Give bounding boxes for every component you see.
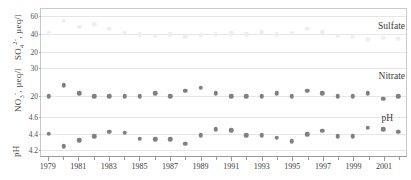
- data-point: [138, 94, 143, 99]
- data-point: [259, 94, 264, 99]
- data-point: [153, 34, 158, 39]
- x-tick-major: [262, 157, 263, 161]
- data-point: [274, 135, 279, 140]
- data-point: [153, 91, 158, 96]
- panel-sulfate: 604020: [40, 8, 407, 60]
- series-label-nitrate: Nitrate: [379, 71, 405, 81]
- data-point: [214, 127, 219, 132]
- data-point: [305, 132, 310, 137]
- x-tick-major: [323, 157, 324, 161]
- x-tick-minor: [338, 157, 339, 160]
- data-point: [229, 128, 234, 133]
- y-axis-title-nitrate: NO3-, µeq/l: [11, 68, 25, 112]
- y-tick-mark: [39, 134, 42, 135]
- data-point: [229, 94, 234, 99]
- data-point: [214, 91, 219, 96]
- x-tick-major: [109, 157, 110, 161]
- data-point: [381, 35, 386, 40]
- y-tick-label: 60: [31, 12, 39, 21]
- data-point: [168, 137, 173, 142]
- data-point: [320, 91, 325, 96]
- x-tick-minor: [399, 157, 400, 160]
- data-point: [335, 94, 340, 99]
- x-tick-label: 2001: [376, 162, 392, 171]
- x-tick-label: 1983: [101, 162, 117, 171]
- x-tick-major: [292, 157, 293, 161]
- x-tick-minor: [369, 157, 370, 160]
- y-tick-mark: [39, 52, 42, 53]
- data-point: [320, 129, 325, 134]
- x-tick-minor: [63, 157, 64, 160]
- x-tick-label: 1995: [284, 162, 300, 171]
- x-tick-label: 1993: [254, 162, 270, 171]
- y-tick-mark: [39, 150, 42, 151]
- x-axis: 1979198119831985198719891991199319951997…: [40, 157, 407, 180]
- x-tick-label: 1997: [315, 162, 331, 171]
- x-tick-major: [231, 157, 232, 161]
- data-point: [198, 133, 203, 138]
- data-point: [244, 94, 249, 99]
- data-point: [62, 18, 67, 23]
- data-point: [335, 134, 340, 139]
- x-tick-minor: [308, 157, 309, 160]
- y-tick-label: 30: [31, 64, 39, 73]
- y-tick-mark: [39, 96, 42, 97]
- data-point: [168, 94, 173, 99]
- y-axis-title-sulfate: SO42-, µeq/l: [11, 14, 25, 60]
- x-tick-label: 1989: [193, 162, 209, 171]
- data-point: [244, 133, 249, 138]
- data-point: [351, 134, 356, 139]
- data-point: [274, 91, 279, 96]
- y-tick-mark: [39, 117, 42, 118]
- series-label-sulfate: Sulfate: [378, 21, 405, 31]
- data-point: [107, 130, 112, 135]
- data-point: [259, 30, 264, 35]
- data-point: [198, 86, 203, 91]
- data-point: [92, 134, 97, 139]
- y-tick-mark: [39, 16, 42, 17]
- panel-ph: 4.64.44.2: [40, 110, 407, 157]
- x-tick-major: [78, 157, 79, 161]
- x-tick-major: [48, 157, 49, 161]
- data-point: [122, 31, 127, 36]
- y-tick-mark: [39, 34, 42, 35]
- x-tick-minor: [185, 157, 186, 160]
- y-tick-label: 40: [31, 30, 39, 39]
- x-tick-major: [139, 157, 140, 161]
- data-point: [381, 97, 386, 102]
- x-tick-minor: [277, 157, 278, 160]
- x-tick-minor: [94, 157, 95, 160]
- data-point: [366, 91, 371, 96]
- data-point: [198, 33, 203, 38]
- data-point: [77, 138, 82, 143]
- data-point: [290, 31, 295, 36]
- data-point: [396, 36, 401, 41]
- x-tick-major: [353, 157, 354, 161]
- y-tick-label: 20: [31, 92, 39, 101]
- data-point: [381, 127, 386, 132]
- y-tick-label: 4.2: [29, 146, 38, 155]
- x-tick-label: 1991: [223, 162, 239, 171]
- data-point: [138, 32, 143, 37]
- data-point: [229, 31, 234, 36]
- data-point: [122, 94, 127, 99]
- x-tick-minor: [216, 157, 217, 160]
- y-tick-label: 4.6: [29, 112, 38, 121]
- x-tick-major: [170, 157, 171, 161]
- data-point: [290, 94, 295, 99]
- data-point: [138, 136, 143, 141]
- data-point: [183, 88, 188, 93]
- data-point: [107, 94, 112, 99]
- data-point: [77, 25, 82, 30]
- x-tick-minor: [124, 157, 125, 160]
- data-point: [259, 133, 264, 138]
- data-point: [305, 26, 310, 31]
- data-point: [290, 139, 295, 144]
- gridline: [41, 150, 406, 151]
- data-point: [183, 35, 188, 40]
- data-point: [183, 141, 188, 146]
- panel-nitrate: 3020: [40, 60, 407, 110]
- data-point: [396, 130, 401, 135]
- data-point: [396, 94, 401, 99]
- x-tick-label: 1999: [345, 162, 361, 171]
